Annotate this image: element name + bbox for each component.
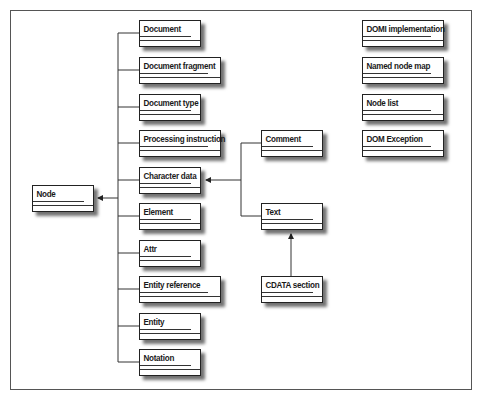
- class-label: CDATA section: [262, 277, 313, 293]
- class-box-cdata-section: CDATA section: [261, 276, 323, 303]
- class-label: Character data: [140, 168, 191, 184]
- class-label: Processing instruction: [140, 131, 208, 147]
- class-box-attr: Attr: [139, 240, 201, 267]
- class-box-comment: Comment: [261, 130, 323, 157]
- class-label: Document: [140, 21, 191, 37]
- class-box-named-node-map: Named node map: [362, 57, 444, 84]
- class-box-node: Node: [32, 185, 94, 212]
- class-label: Notation: [140, 350, 191, 366]
- class-box-entity-reference: Entity reference: [139, 276, 221, 303]
- class-box-entity: Entity: [139, 313, 201, 340]
- class-label: Text: [262, 204, 313, 220]
- class-box-dom-implementation: DOMI implementation: [362, 20, 444, 47]
- class-label: Node: [33, 186, 84, 202]
- class-label: Named node map: [363, 58, 431, 74]
- class-box-notation: Notation: [139, 349, 201, 376]
- class-label: Entity: [140, 314, 191, 330]
- class-box-document-type: Document type: [139, 94, 201, 121]
- class-label: Document type: [140, 95, 191, 111]
- class-box-dom-exception: DOM Exception: [362, 130, 444, 157]
- class-label: Comment: [262, 131, 313, 147]
- class-box-document-fragment: Document fragment: [139, 57, 221, 84]
- class-label: Entity reference: [140, 277, 208, 293]
- class-label: Document fragment: [140, 58, 208, 74]
- class-box-processing-instruction: Processing instruction: [139, 130, 221, 157]
- class-box-element: Element: [139, 203, 201, 230]
- class-box-text: Text: [261, 203, 323, 230]
- class-box-node-list: Node list: [362, 94, 444, 121]
- class-label: DOMI implementation: [363, 21, 431, 37]
- class-label: Element: [140, 204, 191, 220]
- class-label: Attr: [140, 241, 191, 257]
- class-box-document: Document: [139, 20, 201, 47]
- class-label: DOM Exception: [363, 131, 431, 147]
- class-box-character-data: Character data: [139, 167, 201, 194]
- class-label: Node list: [363, 95, 431, 111]
